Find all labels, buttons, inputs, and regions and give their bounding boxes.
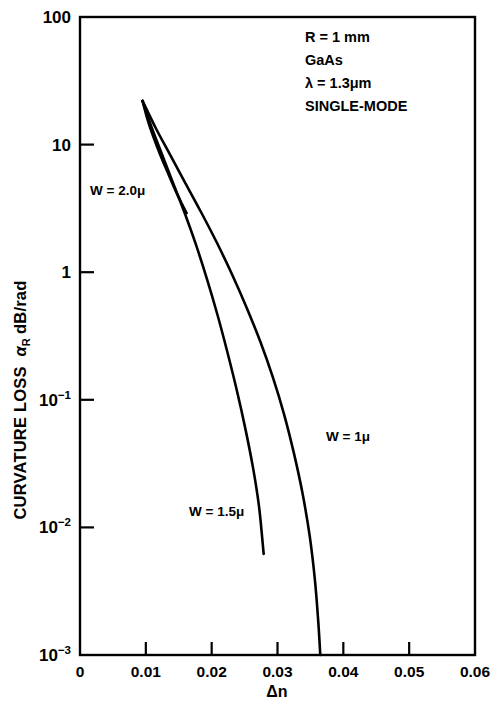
x-tick-label-0.02: 0.02 (197, 663, 227, 680)
y-tick-label-10-2: 10−2 (39, 516, 71, 537)
x-tick-label-0.03: 0.03 (262, 663, 293, 680)
x-tick-label-0.04: 0.04 (328, 663, 359, 680)
annotation-line-2: GaAs (305, 52, 343, 68)
y-tick-label-1: 1 (62, 263, 71, 282)
x-tick-label-0: 0 (76, 663, 85, 680)
plot-frame (80, 17, 475, 655)
annotation-line-3: λ = 1.3μm (305, 75, 372, 91)
curve-w-1- (143, 101, 321, 655)
annotation-block: R = 1 mmGaAsλ = 1.3μmSINGLE-MODE (305, 29, 408, 114)
y-axis-title: CURVATURE LOSS αRdB/rad (11, 280, 32, 519)
curve-label-w-1-5-: W = 1.5μ (189, 504, 244, 519)
curve-label-w-1-: W = 1μ (326, 429, 370, 444)
y-tick-label-10: 10 (52, 136, 71, 155)
y-tick-label-10-3: 10−3 (39, 644, 71, 665)
y-axis-tickmarks (80, 145, 94, 528)
curve-label-w-2-0-: W = 2.0μ (90, 183, 145, 198)
y-axis-tick-labels: 10010110−110−210−3 (39, 8, 72, 665)
curve-labels: W = 2.0μW = 1μW = 1.5μ (90, 183, 370, 519)
y-tick-label-100: 100 (43, 8, 71, 27)
x-axis-tick-labels: 00.010.020.030.040.050.06 (76, 663, 491, 680)
svg-text:CURVATURE LOSS αRdB/ra: CURVATURE LOSS αRdB/rad (11, 280, 32, 519)
x-axis-tickmarks (146, 642, 409, 655)
figure-container: 10010110−110−210−3 00.010.020.030.040.05… (0, 0, 493, 706)
annotation-line-1: R = 1 mm (305, 29, 370, 45)
y-tick-label-10-1: 10−1 (39, 389, 72, 410)
x-tick-label-0.01: 0.01 (131, 663, 162, 680)
x-tick-label-0.06: 0.06 (460, 663, 491, 680)
data-curves (143, 101, 321, 655)
x-tick-label-0.05: 0.05 (394, 663, 425, 680)
annotation-line-4: SINGLE-MODE (305, 98, 408, 114)
x-axis-title: Δn (266, 683, 287, 700)
curvature-loss-chart: 10010110−110−210−3 00.010.020.030.040.05… (0, 0, 493, 706)
curve-w-1-5- (143, 101, 264, 554)
